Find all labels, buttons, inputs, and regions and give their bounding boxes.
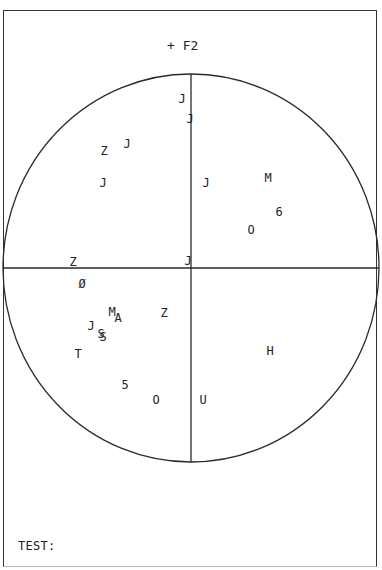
axis-label-f2: + F2 [167,38,198,53]
data-point-label: 5 [121,378,128,392]
factor-plot: + F2 JJZJJJM6OZJØMAZJSSTH5OU [0,0,382,570]
data-point-label: 6 [275,205,282,219]
caption-block: TEST: Führ.Sem.86 N * 22 Bogen F2 = -0.1… [18,494,229,570]
data-point-label: S [99,330,106,344]
data-point-label: Z [100,144,107,158]
data-point-label: Ø [78,277,86,291]
data-point-label: H [266,344,273,358]
data-point-label: J [99,176,106,190]
data-point-label: U [199,393,206,407]
data-point-label: J [202,176,209,190]
data-point-label: A [114,311,122,325]
data-point-label: J [123,137,130,151]
data-point-label: J [186,112,193,126]
data-point-label: J [184,254,191,268]
data-point-label: O [152,393,159,407]
data-point-label: T [74,347,81,361]
data-points: JJZJJJM6OZJØMAZJSSTH5OU [69,92,282,407]
data-point-label: Z [160,306,167,320]
data-point-label: J [178,92,185,106]
data-point-label: O [247,223,254,237]
data-point-label: J [87,319,94,333]
data-point-label: M [264,171,271,185]
data-point-label: Z [69,255,76,269]
caption-title: TEST: [18,536,229,557]
